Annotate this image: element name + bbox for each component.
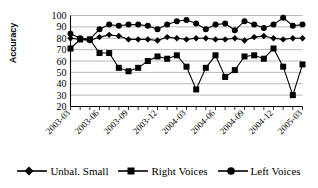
x-tick-label-group-2: 2003-09 xyxy=(102,107,131,136)
legend-item-left-voices[interactable]: Left Voices xyxy=(218,165,301,177)
datapoint-diamond xyxy=(193,35,199,41)
datapoint-circle xyxy=(135,22,141,28)
datapoint-square xyxy=(271,45,277,51)
y-tick-label-40: 40 xyxy=(57,78,67,89)
datapoint-circle xyxy=(184,17,190,23)
y-tick-label-90: 90 xyxy=(57,21,67,32)
datapoint-circle xyxy=(106,22,112,28)
datapoint-square xyxy=(193,86,199,92)
datapoint-circle xyxy=(213,22,219,28)
datapoint-square xyxy=(97,50,103,56)
legend-item-right-voices[interactable]: Right Voices xyxy=(118,165,207,177)
datapoint-circle xyxy=(290,23,296,29)
datapoint-diamond xyxy=(174,35,180,41)
datapoint-diamond xyxy=(290,35,296,41)
x-tick-label-2003-09: 2003-09 xyxy=(102,107,131,136)
datapoint-square xyxy=(106,50,112,56)
datapoint-circle xyxy=(145,23,151,29)
y-tick-label-100: 100 xyxy=(52,10,67,21)
datapoint-circle xyxy=(193,20,199,26)
datapoint-square xyxy=(155,53,161,59)
datapoint-circle xyxy=(164,22,170,28)
datapoint-square xyxy=(145,58,151,64)
datapoint-square xyxy=(68,45,74,51)
x-tick-label-2004-12: 2004-12 xyxy=(247,108,275,136)
datapoint-diamond xyxy=(212,36,218,42)
datapoint-square xyxy=(164,56,170,62)
datapoint-square xyxy=(203,65,209,71)
x-tick-label-2004-06: 2004-06 xyxy=(189,107,218,136)
y-tick-label-60: 60 xyxy=(57,56,67,67)
datapoint-diamond xyxy=(145,36,151,42)
datapoint-square xyxy=(184,64,190,70)
x-tick-label-2004-09: 2004-09 xyxy=(218,107,247,136)
datapoint-square xyxy=(261,56,267,62)
datapoint-circle xyxy=(174,18,180,24)
datapoint-circle xyxy=(271,22,277,28)
square-marker-icon xyxy=(118,165,148,177)
y-tick-label-30: 30 xyxy=(57,90,67,101)
datapoint-square xyxy=(280,64,286,70)
datapoint-circle xyxy=(203,26,209,32)
datapoint-square xyxy=(222,74,228,80)
datapoint-diamond xyxy=(222,36,228,42)
accuracy-line-chart: Accuracy 10090807060504030202003-032003-… xyxy=(0,0,318,188)
datapoint-square xyxy=(232,67,238,73)
datapoint-diamond xyxy=(232,35,238,41)
legend-label-left-voices: Left Voices xyxy=(251,165,301,177)
datapoint-diamond xyxy=(270,35,276,41)
x-tick-label-2003-12: 2003-12 xyxy=(131,108,159,136)
datapoint-square xyxy=(300,61,306,67)
chart-legend: Unbal. Small Right Voices Left Voices xyxy=(0,160,318,182)
datapoint-circle xyxy=(251,22,257,28)
circle-marker-icon xyxy=(218,165,248,177)
x-tick-label-group-8: 2005-03 xyxy=(276,107,305,136)
datapoint-square xyxy=(135,65,141,71)
datapoint-square xyxy=(251,52,257,58)
datapoint-diamond xyxy=(183,36,189,42)
datapoint-circle xyxy=(77,35,83,41)
datapoint-circle xyxy=(222,20,228,26)
x-tick-label-group-7: 2004-12 xyxy=(247,108,275,136)
datapoint-circle xyxy=(232,27,238,33)
legend-label-unbal-small: Unbal. Small xyxy=(50,165,108,177)
datapoint-square xyxy=(213,52,219,58)
datapoint-diamond xyxy=(106,32,112,38)
datapoint-diamond xyxy=(125,36,131,42)
datapoint-circle xyxy=(280,15,286,21)
datapoint-diamond xyxy=(96,34,102,40)
datapoint-circle xyxy=(261,25,267,31)
x-tick-label-group-3: 2003-12 xyxy=(131,108,159,136)
datapoint-square xyxy=(174,52,180,58)
datapoint-diamond xyxy=(135,36,141,42)
datapoint-square xyxy=(126,68,132,74)
datapoint-circle xyxy=(97,26,103,32)
datapoint-circle xyxy=(242,18,248,24)
datapoint-diamond xyxy=(299,35,305,41)
diamond-marker-icon xyxy=(17,165,47,177)
datapoint-square xyxy=(242,53,248,59)
x-tick-label-group-6: 2004-09 xyxy=(218,107,247,136)
legend-item-unbal-small[interactable]: Unbal. Small xyxy=(17,165,108,177)
x-tick-label-2003-06: 2003-06 xyxy=(73,107,102,136)
x-tick-label-2005-03: 2005-03 xyxy=(276,107,305,136)
datapoint-square xyxy=(116,65,122,71)
datapoint-circle xyxy=(116,23,122,29)
datapoint-diamond xyxy=(203,35,209,41)
y-tick-label-50: 50 xyxy=(57,67,67,78)
datapoint-circle xyxy=(68,31,74,37)
y-tick-label-70: 70 xyxy=(57,44,67,55)
y-tick-label-80: 80 xyxy=(57,33,67,44)
datapoint-diamond xyxy=(164,34,170,40)
x-tick-label-2004-03: 2004-03 xyxy=(160,107,189,136)
datapoint-diamond xyxy=(251,34,257,40)
datapoint-diamond xyxy=(280,36,286,42)
legend-label-right-voices: Right Voices xyxy=(151,165,207,177)
datapoint-circle xyxy=(126,22,132,28)
datapoint-circle xyxy=(155,26,161,32)
datapoint-circle xyxy=(300,22,306,28)
datapoint-square xyxy=(290,92,296,98)
x-tick-label-group-1: 2003-06 xyxy=(73,107,102,136)
x-tick-label-group-4: 2004-03 xyxy=(160,107,189,136)
datapoint-circle xyxy=(87,36,93,42)
